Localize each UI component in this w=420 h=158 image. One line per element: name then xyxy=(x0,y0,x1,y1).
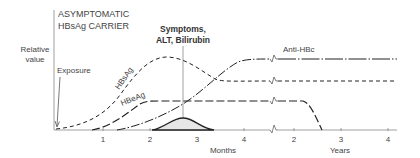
x-ticks xyxy=(103,128,388,131)
x-tick-label-month-3: 3 xyxy=(195,135,200,144)
chart-title-line-2: HBsAg CARRIER xyxy=(58,21,130,31)
y-axis-label-line-1: Relative xyxy=(21,45,50,54)
symptoms-label-line-1: Symptoms, xyxy=(160,24,206,34)
series-hbsag-break xyxy=(270,77,278,84)
x-tick-label-month-2: 2 xyxy=(148,135,153,144)
series-label-hbsag: HBsAg xyxy=(113,66,135,92)
x-tick-label-year-4: 4 xyxy=(386,135,391,144)
series-label-antihbc: Anti-HBc xyxy=(283,45,315,54)
series-hbeag-line-years xyxy=(278,101,322,130)
x-axis-label-months: Months xyxy=(210,146,236,155)
exposure-arrow-line xyxy=(57,77,60,126)
series-label-hbeag: HBeAg xyxy=(119,90,146,108)
chart: ASYMPTOMATIC HBsAg CARRIER Relative valu… xyxy=(0,0,420,158)
x-axis-label-years: Years xyxy=(330,146,350,155)
x-axis-break xyxy=(270,125,278,133)
chart-title-line-1: ASYMPTOMATIC xyxy=(58,9,130,19)
x-tick-label-year-3: 3 xyxy=(339,135,344,144)
series-antihbc-break xyxy=(270,55,278,62)
series-hbeag-break xyxy=(270,97,278,104)
series-symptoms-hump xyxy=(152,118,214,130)
x-tick-label-year-2: 2 xyxy=(292,135,297,144)
x-tick-label-month-4: 4 xyxy=(242,135,247,144)
y-axis-label-line-2: value xyxy=(25,55,45,64)
exposure-label: Exposure xyxy=(57,66,91,75)
x-tick-label-month-1: 1 xyxy=(101,135,106,144)
symptoms-label-line-2: ALT, Bilirubin xyxy=(156,35,210,45)
